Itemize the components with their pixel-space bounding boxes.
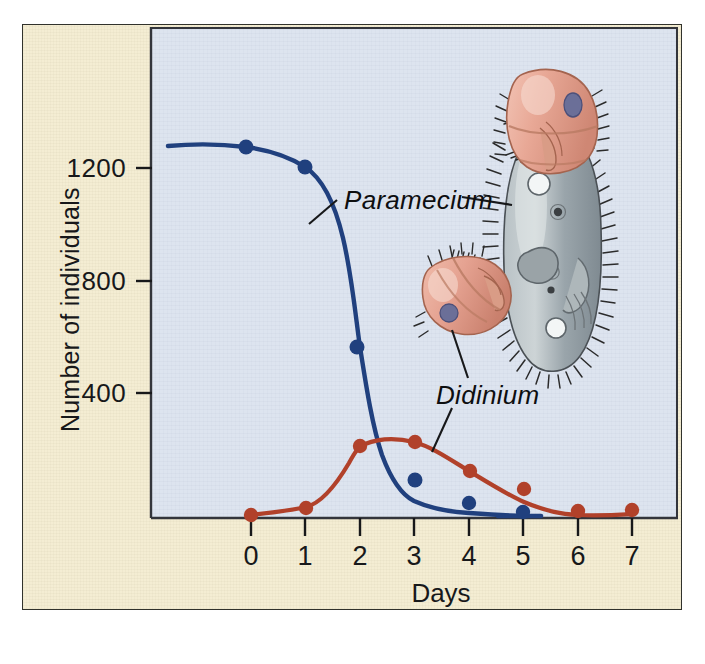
x-tick-label-5: 5 (503, 541, 543, 572)
x-tick-label-3: 3 (394, 541, 434, 572)
x-axis-title: Days (341, 578, 541, 609)
x-tick-label-7: 7 (612, 541, 652, 572)
figure-panel: 1200 800 400 0 1 2 3 4 5 6 7 Number of i… (0, 0, 705, 664)
x-tick-label-0: 0 (231, 541, 271, 572)
y-tick-label-1200: 1200 (40, 153, 126, 184)
x-tick-label-6: 6 (558, 541, 598, 572)
plot-area (151, 27, 678, 518)
didinium-label: Didinium (436, 380, 540, 411)
x-tick-label-2: 2 (340, 541, 380, 572)
y-axis-title: Number of individuals (56, 187, 85, 432)
x-tick-label-4: 4 (449, 541, 489, 572)
paramecium-label: Paramecium (344, 185, 493, 216)
x-tick-label-1: 1 (285, 541, 325, 572)
